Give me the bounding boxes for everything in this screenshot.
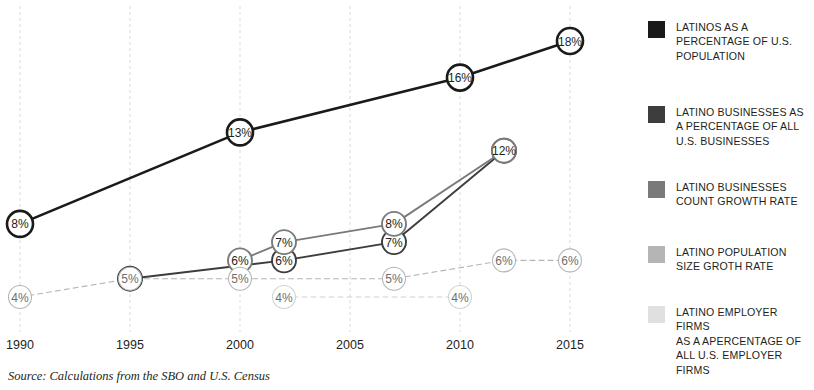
chart-figure: 8%13%16%18%5%6%7%12%6%7%8%12%4%5%5%5%6%6… bbox=[0, 0, 814, 390]
legend-label: LATINO POPULATIONSIZE GROTH RATE bbox=[676, 245, 786, 274]
legend-label-line: LATINO BUSINESSES bbox=[676, 180, 798, 194]
legend-label-line: ALL U.S. EMPLOYER FIRMS bbox=[676, 348, 814, 377]
legend-label-line: COUNT GROWTH RATE bbox=[676, 194, 798, 208]
series-line-1 bbox=[130, 151, 504, 279]
data-point-marker: 8% bbox=[7, 211, 33, 237]
legend-swatch-icon bbox=[648, 181, 665, 198]
data-point-marker: 4% bbox=[9, 286, 32, 309]
legend-label-line: LATINO EMPLOYER FIRMS bbox=[676, 305, 814, 334]
legend-swatch-icon bbox=[648, 306, 665, 323]
chart-legend: LATINOS AS APERCENTAGE OF U.S.POPULATION… bbox=[648, 20, 814, 330]
x-tick-label-1990: 1990 bbox=[6, 338, 34, 352]
data-point-label: 6% bbox=[275, 254, 293, 268]
legend-label-line: LATINO BUSINESSES AS bbox=[676, 105, 804, 119]
data-point-label: 18% bbox=[558, 35, 582, 49]
legend-item-3[interactable]: LATINO POPULATIONSIZE GROTH RATE bbox=[648, 245, 814, 274]
x-tick-label-2005: 2005 bbox=[336, 338, 364, 352]
data-point-label: 16% bbox=[448, 71, 472, 85]
x-axis: 199019952000200520102015 bbox=[0, 338, 640, 364]
legend-label-line: A PERCENTAGE OF ALL bbox=[676, 119, 804, 133]
x-tick-label-2010: 2010 bbox=[446, 338, 474, 352]
x-tick-label-1995: 1995 bbox=[116, 338, 144, 352]
series-line-0 bbox=[20, 41, 570, 224]
data-point-marker: 5% bbox=[119, 267, 142, 290]
x-tick-label-2000: 2000 bbox=[226, 338, 254, 352]
legend-label: LATINO BUSINESSESCOUNT GROWTH RATE bbox=[676, 180, 798, 209]
data-point-label: 12% bbox=[492, 144, 516, 158]
data-point-label: 7% bbox=[275, 236, 293, 250]
data-point-label: 6% bbox=[231, 254, 249, 268]
data-point-marker: 13% bbox=[227, 119, 253, 145]
data-point-marker: 4% bbox=[273, 286, 296, 309]
legend-item-4[interactable]: LATINO EMPLOYER FIRMSAS A APERCENTAGE OF… bbox=[648, 305, 814, 377]
data-point-label: 8% bbox=[385, 217, 403, 231]
legend-label: LATINO EMPLOYER FIRMSAS A APERCENTAGE OF… bbox=[676, 305, 814, 377]
data-point-marker: 5% bbox=[383, 267, 406, 290]
data-point-marker: 6% bbox=[559, 249, 582, 272]
data-point-marker: 7% bbox=[272, 230, 296, 254]
data-point-label: 6% bbox=[495, 254, 513, 268]
x-tick-label-2015: 2015 bbox=[556, 338, 584, 352]
legend-item-0[interactable]: LATINOS AS APERCENTAGE OF U.S.POPULATION bbox=[648, 20, 814, 63]
data-point-marker: 5% bbox=[229, 267, 252, 290]
legend-label-line: LATINOS AS A bbox=[676, 20, 792, 34]
data-point-label: 5% bbox=[231, 272, 249, 286]
data-point-marker: 6% bbox=[493, 249, 516, 272]
legend-label-line: SIZE GROTH RATE bbox=[676, 259, 786, 273]
legend-swatch-icon bbox=[648, 21, 665, 38]
data-point-marker: 8% bbox=[382, 212, 406, 236]
legend-swatch-icon bbox=[648, 106, 665, 123]
data-point-label: 7% bbox=[385, 236, 403, 250]
legend-label-line: AS A APERCENTAGE OF bbox=[676, 334, 814, 348]
data-point-marker: 18% bbox=[557, 28, 583, 54]
data-point-label: 5% bbox=[385, 272, 403, 286]
data-point-label: 5% bbox=[121, 272, 139, 286]
legend-label: LATINOS AS APERCENTAGE OF U.S.POPULATION bbox=[676, 20, 792, 63]
chart-svg: 8%13%16%18%5%6%7%12%6%7%8%12%4%5%5%5%6%6… bbox=[0, 0, 640, 340]
source-note: Source: Calculations from the SBO and U.… bbox=[8, 369, 270, 384]
plot-area: 8%13%16%18%5%6%7%12%6%7%8%12%4%5%5%5%6%6… bbox=[0, 0, 640, 340]
data-point-marker: 4% bbox=[449, 286, 472, 309]
legend-label-line: POPULATION bbox=[676, 49, 792, 63]
series-markers: 8%13%16%18%5%6%7%12%6%7%8%12%4%5%5%5%6%6… bbox=[7, 28, 583, 309]
legend-label-line: LATINO POPULATION bbox=[676, 245, 786, 259]
legend-swatch-icon bbox=[648, 246, 665, 263]
data-point-label: 4% bbox=[451, 291, 469, 305]
data-point-marker: 16% bbox=[447, 65, 473, 91]
data-point-label: 6% bbox=[561, 254, 579, 268]
data-point-marker: 12% bbox=[492, 139, 516, 163]
legend-item-2[interactable]: LATINO BUSINESSESCOUNT GROWTH RATE bbox=[648, 180, 814, 209]
legend-label: LATINO BUSINESSES ASA PERCENTAGE OF ALLU… bbox=[676, 105, 804, 148]
legend-label-line: PERCENTAGE OF U.S. bbox=[676, 34, 792, 48]
data-point-label: 4% bbox=[11, 291, 29, 305]
data-point-label: 4% bbox=[275, 291, 293, 305]
data-point-label: 13% bbox=[228, 126, 252, 140]
data-point-label: 8% bbox=[11, 217, 29, 231]
legend-label-line: U.S. BUSINESSES bbox=[676, 134, 804, 148]
legend-item-1[interactable]: LATINO BUSINESSES ASA PERCENTAGE OF ALLU… bbox=[648, 105, 814, 148]
